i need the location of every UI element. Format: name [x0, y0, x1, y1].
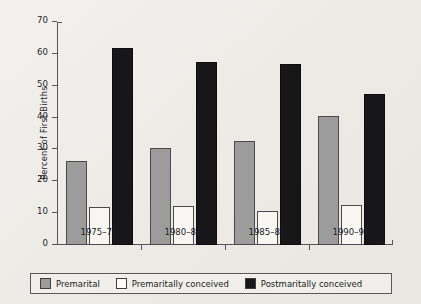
- bar-postconceived-3: [364, 94, 385, 245]
- x-axis-label-1: 1980–84: [141, 227, 225, 237]
- bar-preconceived-1: [173, 206, 194, 246]
- x-tick-2: [309, 245, 310, 250]
- bar-preconceived-3: [341, 205, 362, 245]
- legend-swatch-premaritally-conceived: [116, 278, 127, 289]
- legend-item-premarital: Premarital: [40, 278, 100, 289]
- plot-area: 010203040506070: [57, 22, 393, 245]
- legend-item-postmaritally-conceived: Postmaritally conceived: [245, 278, 362, 289]
- y-tick-50: 50: [52, 85, 57, 86]
- bar-premarital-3: [318, 116, 339, 245]
- legend-swatch-postmaritally-conceived: [245, 278, 256, 289]
- bar-postconceived-1: [196, 62, 217, 245]
- x-tick-1: [225, 245, 226, 250]
- y-tick-20: 20: [52, 180, 57, 181]
- y-tick-70: 70: [52, 21, 57, 22]
- bar-preconceived-0: [89, 207, 110, 245]
- y-tick-label-50: 50: [37, 79, 48, 89]
- legend-swatch-premarital: [40, 278, 51, 289]
- y-tick-label-70: 70: [37, 15, 48, 25]
- x-axis-right-cap: [392, 240, 393, 245]
- y-tick-40: 40: [52, 117, 57, 118]
- y-tick-10: 10: [52, 212, 57, 213]
- legend-label-premaritally-conceived: Premaritally conceived: [132, 279, 229, 289]
- x-tick-0: [141, 245, 142, 250]
- x-axis-label-3: 1990–94: [309, 227, 393, 237]
- legend-label-postmaritally-conceived: Postmaritally conceived: [261, 279, 362, 289]
- legend-label-premarital: Premarital: [56, 279, 100, 289]
- x-axis-label-0: 1975–79: [57, 227, 141, 237]
- chart-legend: Premarital Premaritally conceived Postma…: [30, 273, 392, 294]
- y-tick-label-40: 40: [37, 111, 48, 121]
- bar-chart: Percent of First Births 010203040506070 …: [0, 0, 421, 304]
- y-axis-top-cap: [57, 22, 62, 23]
- y-tick-0: 0: [52, 244, 57, 245]
- y-tick-label-0: 0: [43, 238, 48, 248]
- bar-postconceived-0: [112, 48, 133, 245]
- y-tick-60: 60: [52, 53, 57, 54]
- bar-postconceived-2: [280, 64, 301, 245]
- x-axis-label-2: 1985–89: [225, 227, 309, 237]
- y-axis-line: [57, 22, 58, 245]
- y-tick-label-20: 20: [37, 174, 48, 184]
- y-tick-label-30: 30: [37, 142, 48, 152]
- legend-item-premaritally-conceived: Premaritally conceived: [116, 278, 229, 289]
- y-tick-label-60: 60: [37, 47, 48, 57]
- y-tick-30: 30: [52, 148, 57, 149]
- y-axis-title: Percent of First Births: [39, 53, 49, 213]
- y-tick-label-10: 10: [37, 206, 48, 216]
